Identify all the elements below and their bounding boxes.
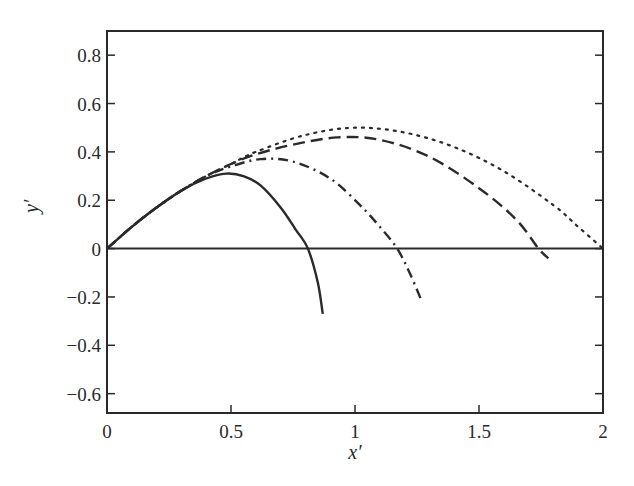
y-tick-label: 0.2 [77, 190, 101, 211]
series-dotted [107, 128, 603, 249]
chart: 00.511.52 0.80.60.40.20−0.2−0.4−0.6 x′ y… [0, 0, 634, 486]
y-tick-labels: 0.80.60.40.20−0.2−0.4−0.6 [67, 45, 102, 404]
x-tick-label: 0 [102, 421, 112, 442]
x-tick-label: 0.5 [219, 421, 243, 442]
series-dash-dot [107, 159, 422, 302]
y-tick-label: 0 [92, 239, 102, 260]
y-axis-label: y′ [20, 199, 43, 215]
x-axis-ticks [231, 405, 479, 413]
x-tick-label: 1.5 [467, 421, 491, 442]
y-tick-label: 0.8 [77, 45, 101, 66]
series-dashed [107, 137, 548, 258]
y-tick-label: 0.6 [77, 94, 101, 115]
y-tick-label: −0.6 [67, 384, 101, 405]
plot-area [107, 31, 603, 413]
plot-frame [107, 31, 603, 413]
y-tick-label: 0.4 [77, 142, 101, 163]
y-tick-label: −0.2 [67, 287, 101, 308]
y-tick-label: −0.4 [67, 335, 102, 356]
y-axis-ticks [107, 55, 603, 393]
x-tick-labels: 00.511.52 [102, 421, 608, 442]
x-axis-label: x′ [347, 441, 362, 463]
series-group [107, 128, 603, 314]
series-solid [107, 174, 323, 314]
x-tick-label: 2 [598, 421, 608, 442]
x-tick-label: 1 [350, 421, 360, 442]
